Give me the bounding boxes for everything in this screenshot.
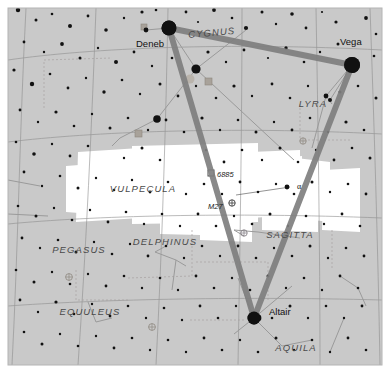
star-dot [273, 121, 275, 123]
star-dot [255, 131, 258, 134]
star-dot [345, 247, 348, 250]
star-dot [359, 225, 362, 228]
star-dot [123, 157, 125, 159]
star-dot [328, 98, 332, 102]
star-dot [23, 41, 26, 44]
star-dot [145, 317, 147, 319]
star-dot [23, 331, 26, 334]
star-dot [140, 10, 143, 13]
star-dot [235, 305, 237, 307]
star-dot [289, 97, 292, 100]
constellation-label-equuleus: EQUULEUS [59, 306, 120, 317]
star-dot [95, 177, 97, 179]
star-dot [97, 47, 99, 49]
star-dot [197, 213, 200, 216]
star-dot [351, 147, 354, 150]
star-dot [33, 281, 36, 284]
star-dot [87, 273, 89, 275]
star-dot [183, 257, 185, 259]
star-dot [23, 171, 26, 174]
star-dot [239, 339, 241, 341]
star-dot [51, 271, 53, 273]
star-dot [375, 97, 378, 100]
star-dot [67, 87, 70, 90]
star-dot [68, 24, 72, 28]
star-dot [305, 215, 308, 218]
star-dot [191, 64, 200, 73]
star-dot [369, 157, 372, 160]
star-dot [201, 245, 204, 248]
star-dot [206, 50, 209, 53]
star-dot [269, 213, 272, 216]
star-dot [333, 159, 336, 162]
star-dot [251, 95, 253, 97]
star-dot [261, 159, 263, 161]
star-dot [15, 269, 18, 272]
star-dot [279, 147, 282, 150]
star-dot [291, 255, 294, 258]
star-dot [77, 187, 80, 190]
star-dot [195, 85, 197, 87]
star-dot [49, 73, 52, 76]
star-dot [361, 305, 364, 308]
star-dot [129, 243, 131, 245]
star-dot [21, 237, 24, 240]
constellation-label-lyra: LYRA [299, 98, 327, 109]
star-dot [297, 161, 300, 164]
star-dot [185, 11, 188, 14]
star-dot [257, 351, 260, 354]
star-dot [35, 215, 38, 218]
star-dot [307, 317, 309, 319]
star-dot [309, 117, 312, 120]
star-dot [257, 191, 260, 194]
star-dot [321, 11, 323, 13]
star-dot [159, 277, 162, 280]
star-dot [54, 110, 57, 113]
star-dot [109, 127, 112, 130]
star-dot [57, 239, 60, 242]
star-dot [271, 83, 274, 86]
star-dot [334, 20, 337, 23]
star-dot [127, 305, 130, 308]
star-dot [291, 129, 294, 132]
star-dot [347, 183, 350, 186]
star-dot [275, 183, 277, 185]
star-dot [217, 317, 220, 320]
star-dot [303, 277, 306, 280]
star-dot [221, 193, 223, 195]
star-dot [177, 289, 179, 291]
star-dot [293, 193, 296, 196]
star-dot [215, 97, 218, 100]
star-dot [12, 68, 15, 71]
star-dot [319, 51, 321, 53]
star-dot [147, 129, 149, 131]
star-dot [123, 17, 125, 19]
star-dot [93, 241, 95, 243]
star-dot [365, 193, 368, 196]
star-dot [223, 161, 226, 164]
star-dot [123, 275, 126, 278]
star-label-altair: Altair [269, 306, 291, 317]
star-dot [159, 83, 162, 86]
star-dot [203, 337, 206, 340]
star-dot [159, 159, 162, 162]
star-dot [60, 42, 64, 46]
star-dot [87, 145, 90, 148]
star-dot [203, 183, 206, 186]
star-dot [215, 225, 218, 228]
star-dot [114, 60, 118, 64]
bright-star-deneb [162, 21, 177, 36]
star-dot [91, 303, 93, 305]
star-dot [341, 213, 344, 216]
star-dot [131, 337, 134, 340]
star-dot [167, 339, 170, 342]
star-dot [231, 17, 234, 20]
star-dot [144, 28, 149, 33]
star-dot [261, 11, 264, 14]
star-dot [225, 61, 227, 63]
star-dot [17, 205, 20, 208]
star-dot [321, 289, 323, 291]
bright-star-vega [344, 57, 360, 73]
star-dot [131, 179, 133, 181]
star-dot [95, 335, 97, 337]
